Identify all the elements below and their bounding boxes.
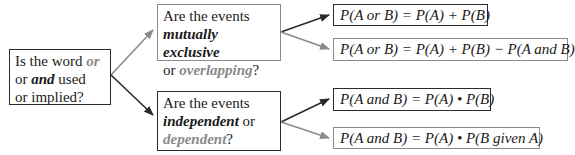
formula-independent-text: P(A and B) = P(A) • P(B) — [340, 91, 494, 107]
and-question-line1: Are the events — [163, 94, 275, 112]
root-question-line2: or and used — [15, 70, 105, 88]
formula-mutually-exclusive-text: P(A or B) = P(A) + P(B) — [340, 7, 490, 23]
arrow-root-to-and — [111, 75, 153, 115]
root-line2-post: used — [55, 71, 86, 87]
root-line1-text: Is the word — [15, 53, 86, 69]
root-question-line3: or implied? — [15, 88, 105, 106]
arrow-and-to-indep — [281, 99, 329, 122]
keyword-overlapping: overlapping — [179, 62, 252, 78]
keyword-and: and — [31, 71, 54, 87]
and-line2-post: or — [239, 113, 255, 129]
and-question-box: Are the events independent or dependent? — [157, 91, 281, 151]
keyword-independent: independent — [163, 113, 239, 129]
or-line3-post: ? — [253, 62, 260, 78]
root-question-box: Is the word or or and used or implied? — [9, 49, 111, 105]
root-question-line1: Is the word or — [15, 52, 105, 70]
formula-mutually-exclusive: P(A or B) = P(A) + P(B) — [333, 4, 488, 26]
formula-overlapping-text: P(A or B) = P(A) + P(B) − P(A and B) — [340, 41, 575, 57]
arrow-or-to-mutex — [281, 15, 329, 32]
keyword-mutually-exclusive: mutually exclusive — [163, 25, 275, 61]
or-line3-pre: or — [163, 62, 179, 78]
arrow-or-to-overlap — [281, 32, 329, 49]
or-question-line3: or overlapping? — [163, 61, 275, 79]
and-line3-post: ? — [226, 131, 233, 147]
arrow-and-to-dep — [281, 122, 329, 138]
or-question-box: Are the events mutually exclusive or ove… — [157, 4, 281, 61]
or-question-line1: Are the events — [163, 7, 275, 25]
formula-dependent: P(A and B) = P(A) • P(B given A) — [333, 127, 540, 149]
formula-dependent-text: P(A and B) = P(A) • P(B given A) — [340, 130, 543, 146]
formula-independent: P(A and B) = P(A) • P(B) — [333, 88, 491, 111]
and-question-line2: independent or — [163, 112, 275, 130]
keyword-or: or — [86, 53, 99, 69]
arrow-root-to-or — [111, 30, 153, 75]
formula-overlapping: P(A or B) = P(A) + P(B) − P(A and B) — [333, 38, 568, 61]
root-line2-pre: or — [15, 71, 31, 87]
and-question-line3: dependent? — [163, 130, 275, 148]
keyword-dependent: dependent — [163, 131, 226, 147]
